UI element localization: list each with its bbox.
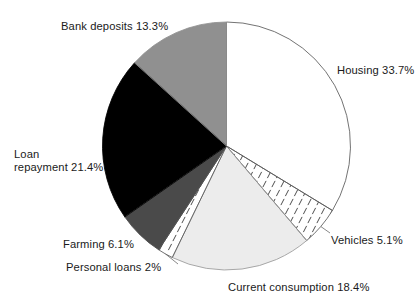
slice-label-personal-loans: Personal loans 2% — [66, 261, 161, 274]
slice-label-current-consumption: Current consumption 18.4% — [228, 281, 369, 294]
slice-label-bank-deposits: Bank deposits 13.3% — [61, 20, 168, 33]
leader-line-vehicles — [321, 227, 330, 234]
pie-chart: Bank deposits 13.3% Housing 33.7% Loan r… — [0, 0, 419, 299]
slice-label-loan-repayment-line1: Loan — [14, 148, 39, 161]
slice-label-loan-repayment-line2: repayment 21.4% — [14, 161, 103, 174]
slice-label-farming: Farming 6.1% — [63, 238, 134, 251]
slice-label-housing: Housing 33.7% — [337, 64, 414, 77]
slice-label-vehicles: Vehicles 5.1% — [331, 234, 403, 247]
pie-svg — [0, 0, 419, 299]
